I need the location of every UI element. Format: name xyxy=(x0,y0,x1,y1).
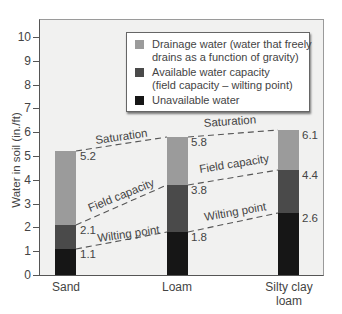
x-label-text: Loam xyxy=(155,280,199,294)
legend-text: Drainage water (water that freely xyxy=(152,38,312,51)
label-wilting-point-1: Wilting point xyxy=(97,223,161,244)
legend-swatch xyxy=(135,96,144,105)
x-label-loam: Loam xyxy=(155,280,199,294)
value-sand-sat: 5.2 xyxy=(80,150,96,162)
label-field-capacity-1: Field capacity xyxy=(86,176,156,214)
x-label-silty-clay-loam: Silty clay loam xyxy=(258,280,320,308)
x-label-sand: Sand xyxy=(45,280,87,294)
legend: Drainage water (water that freely drains… xyxy=(126,32,310,112)
value-sand-fc: 2.1 xyxy=(80,224,96,236)
legend-text: drains as a function of gravity) xyxy=(152,51,312,64)
x-label-text: loam xyxy=(258,294,320,308)
value-loam-fc: 3.8 xyxy=(191,184,207,196)
label-wilting-point-2: Wilting point xyxy=(203,200,268,223)
x-label-text: Silty clay xyxy=(258,280,320,294)
value-sand-wp: 1.1 xyxy=(80,248,96,260)
value-loam-sat: 5.8 xyxy=(191,136,207,148)
legend-text: (field capacity – wilting point) xyxy=(152,79,293,92)
value-scl-fc: 4.4 xyxy=(302,169,318,181)
legend-text: Available water capacity xyxy=(152,66,293,79)
label-field-capacity-2: Field capacity xyxy=(198,152,270,175)
legend-text: Unavailable water xyxy=(152,94,239,107)
x-label-text: Sand xyxy=(45,280,87,294)
value-loam-wp: 1.8 xyxy=(191,231,207,243)
label-saturation-2: Saturation xyxy=(203,113,256,129)
legend-swatch xyxy=(135,40,144,49)
value-scl-wp: 2.6 xyxy=(302,212,318,224)
value-scl-sat: 6.1 xyxy=(302,129,318,141)
label-saturation-1: Saturation xyxy=(95,127,149,146)
legend-swatch xyxy=(135,68,144,77)
